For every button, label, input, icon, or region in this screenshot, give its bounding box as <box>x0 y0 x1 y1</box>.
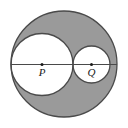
center-point-q-label: Q <box>88 66 96 78</box>
center-point-p-label: P <box>38 66 46 78</box>
geometry-diagram: P Q <box>0 0 128 128</box>
geometry-figure-canvas: P Q <box>0 0 128 128</box>
